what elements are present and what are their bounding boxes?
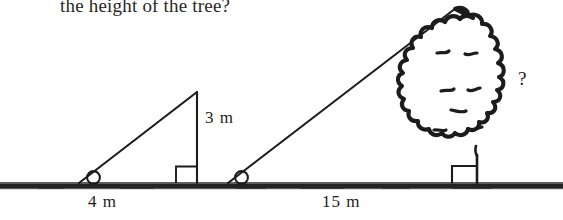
tree-foliage-detail <box>434 51 482 131</box>
label-small-triangle-base: 4 m <box>88 192 117 212</box>
geometry-diagram-svg <box>0 0 563 220</box>
right-angle-square-tree-base <box>452 166 477 184</box>
tree-foliage <box>398 8 504 137</box>
ground-line <box>0 182 563 189</box>
label-small-triangle-height: 3 m <box>205 108 234 128</box>
figure-canvas: the height of the tree? 3 m 4 m 15 m ? <box>0 0 563 220</box>
tree-illustration <box>398 8 504 184</box>
label-unknown-height: ? <box>518 68 526 90</box>
label-large-triangle-base: 15 m <box>322 192 360 212</box>
question-text: the height of the tree? <box>60 0 230 17</box>
right-angle-square-small-triangle <box>176 167 197 184</box>
small-right-triangle <box>79 92 197 183</box>
